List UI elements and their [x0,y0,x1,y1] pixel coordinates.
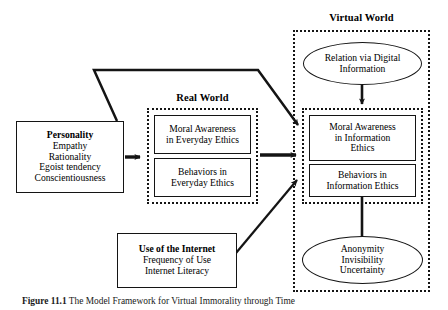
personality-box: Personality Empathy Rationality Egoist t… [16,121,124,193]
figure-diagram: Real World Moral Awareness in Everyday E… [0,0,448,310]
moral-awareness-information-line-3: Ethics [351,143,375,154]
behaviors-everyday-box: Behaviors in Everyday Ethics [154,158,251,197]
moral-awareness-everyday-line-2: in Everyday Ethics [166,135,239,146]
internet-use-item-1: Internet Literacy [145,266,209,277]
figure-caption-label: Figure 11.1 [22,296,67,306]
behaviors-everyday-line-2: Everyday Ethics [171,178,234,189]
relation-digital-line-1: Relation via Digital [325,53,401,64]
anonymity-line-1: Anonymity [341,244,385,255]
behaviors-information-box: Behaviors in Information Ethics [309,164,416,197]
relation-via-digital-information-ellipse: Relation via Digital Information [303,42,422,85]
anonymity-line-3: Uncertainty [340,265,385,276]
relation-digital-line-2: Information [340,64,386,75]
moral-awareness-everyday-box: Moral Awareness in Everyday Ethics [154,115,251,154]
behaviors-everyday-line-1: Behaviors in [178,167,227,178]
moral-awareness-information-line-1: Moral Awareness [329,122,396,133]
behaviors-information-line-1: Behaviors in [338,170,387,181]
moral-awareness-information-box: Moral Awareness in Information Ethics [309,115,416,161]
real-world-title: Real World [147,92,258,103]
personality-item-3: Conscientiousness [35,173,106,184]
use-of-the-internet-box: Use of the Internet Frequency of Use Int… [117,233,237,288]
virtual-world-title: Virtual World [293,12,430,23]
figure-caption: Figure 11.1 The Model Framework for Virt… [22,296,442,307]
moral-awareness-everyday-line-1: Moral Awareness [169,124,236,135]
anonymity-ellipse: Anonymity Invisibility Uncertainty [302,236,423,284]
personality-item-0: Empathy [53,141,88,152]
figure-caption-text: The Model Framework for Virtual Immorali… [69,296,295,306]
behaviors-information-line-2: Information Ethics [326,181,398,192]
